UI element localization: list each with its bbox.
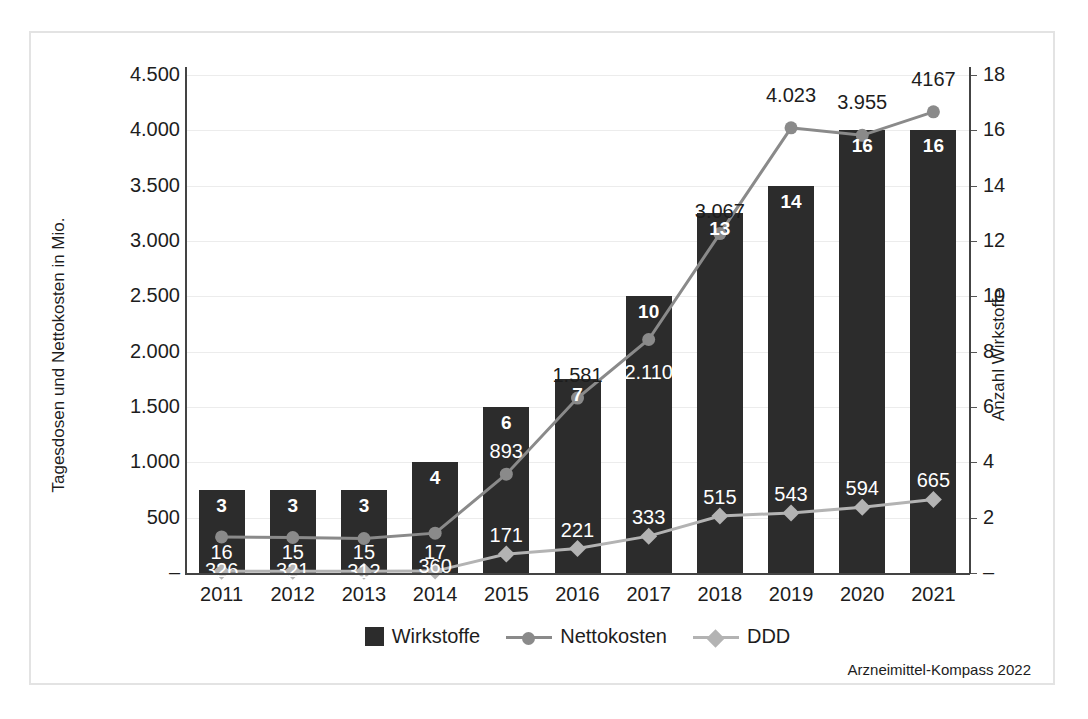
y-axis-right-tick-label: 18: [983, 63, 1005, 86]
ddd-value-label: 543: [755, 483, 826, 506]
chart-frame: Tagesdosen und Nettokosten in Mio. Anzah…: [29, 31, 1055, 685]
x-axis-tick-label: 2012: [257, 583, 328, 606]
ddd-value-label: 221: [542, 519, 613, 542]
bar-value-label: 14: [755, 191, 826, 213]
legend-marker-circle-icon: [522, 632, 535, 645]
y-axis-left-tick-label: 2.000: [130, 340, 180, 363]
bar-value-label: 3: [257, 495, 328, 517]
y-axis-left-tick-label: 1.000: [130, 450, 180, 473]
y-axis-left-tick-label: 500: [147, 506, 180, 529]
marker-diamond: [498, 546, 515, 563]
ddd-value-label: 665: [898, 469, 969, 492]
x-axis-tick-label: 2021: [898, 583, 969, 606]
legend-line-icon: [506, 630, 552, 644]
source-attribution: Arzneimittel-Kompass 2022: [848, 661, 1031, 678]
bar-value-label: 4: [400, 467, 471, 489]
x-axis-line: [185, 573, 970, 575]
x-axis-tick-label: 2019: [755, 583, 826, 606]
marker-diamond: [711, 508, 728, 525]
y-axis-right-line: [969, 67, 971, 574]
legend-line-icon: [693, 630, 739, 644]
bar-value-label: 10: [613, 301, 684, 323]
legend-item-ddd: DDD: [693, 625, 790, 648]
x-axis-tick-label: 2017: [613, 583, 684, 606]
marker-circle: [500, 468, 513, 481]
legend-item-nettokosten: Nettokosten: [506, 625, 667, 648]
bar-value-label: 3: [186, 495, 257, 517]
y-axis-right-tick-label: 6: [983, 395, 994, 418]
marker-diamond: [925, 491, 942, 508]
y-axis-left-tick-label: 4.000: [130, 118, 180, 141]
y-axis-left-tick-label: 1.500: [130, 395, 180, 418]
ddd-value-label: 333: [613, 506, 684, 529]
y-axis-left-tick-label: 3.500: [130, 174, 180, 197]
ddd-value-label: 15: [257, 541, 328, 564]
x-axis-tick-label: 2018: [684, 583, 755, 606]
y-axis-left-tick-label: –: [169, 561, 180, 584]
y-axis-right-tick-label: 16: [983, 118, 1005, 141]
bar-value-label: 16: [898, 135, 969, 157]
marker-diamond: [569, 540, 586, 557]
legend-square-icon: [365, 627, 384, 646]
marker-circle: [642, 333, 655, 346]
marker-diamond: [640, 528, 657, 545]
marker-circle: [927, 105, 940, 118]
y-axis-right-tick-label: 2: [983, 506, 994, 529]
x-axis-tick-label: 2015: [471, 583, 542, 606]
y-axis-right-tick-label: 4: [983, 450, 994, 473]
y-axis-right-tick-label: 10: [983, 284, 1005, 307]
nettokosten-value-label: 2.110: [613, 361, 684, 384]
nettokosten-value-label: 1.581: [542, 364, 613, 387]
ddd-value-label: 15: [328, 541, 399, 564]
marker-diamond: [783, 504, 800, 521]
ddd-value-label: 515: [684, 486, 755, 509]
legend-label: Wirkstoffe: [392, 625, 481, 648]
line-nettokosten: [222, 112, 934, 539]
marker-circle: [785, 121, 798, 134]
ddd-value-label: 171: [471, 524, 542, 547]
x-axis-tick-label: 2014: [400, 583, 471, 606]
marker-diamond: [854, 499, 871, 516]
plot-area: 4.5004.0003.5003.0002.5002.0001.5001.000…: [186, 75, 969, 573]
y-axis-left-tick-label: 3.000: [130, 229, 180, 252]
ddd-value-label: 594: [827, 477, 898, 500]
x-axis-tick-label: 2020: [827, 583, 898, 606]
nettokosten-value-label: 3.067: [684, 200, 755, 223]
chart-page: Tagesdosen und Nettokosten in Mio. Anzah…: [0, 0, 1088, 719]
bar-value-label: 16: [827, 135, 898, 157]
legend-marker-diamond-icon: [706, 629, 724, 647]
nettokosten-value-label: 4.023: [755, 84, 826, 107]
y-axis-right-tick-label: 8: [983, 340, 994, 363]
y-axis-right-tick-label: –: [983, 561, 994, 584]
x-axis-tick-label: 2013: [328, 583, 399, 606]
bar-value-label: 3: [328, 495, 399, 517]
bar-value-label: 6: [471, 412, 542, 434]
ddd-value-label: 16: [186, 541, 257, 564]
nettokosten-value-label: 893: [471, 440, 542, 463]
x-axis-tick-label: 2011: [186, 583, 257, 606]
ddd-value-label: 17: [400, 541, 471, 564]
nettokosten-value-label: 3.955: [827, 91, 898, 114]
y-axis-right-tick-label: 12: [983, 229, 1005, 252]
legend-item-wirkstoffe: Wirkstoffe: [365, 625, 481, 648]
y-axis-left-tick-label: 2.500: [130, 284, 180, 307]
y-axis-title-left: Tagesdosen und Nettokosten in Mio.: [49, 145, 69, 565]
x-axis-tick-label: 2016: [542, 583, 613, 606]
y-axis-left-line: [185, 67, 187, 574]
bar-value-label: 7: [542, 384, 613, 406]
nettokosten-value-label: 4167: [898, 68, 969, 91]
legend-label: DDD: [747, 625, 790, 648]
legend-label: Nettokosten: [560, 625, 667, 648]
marker-circle: [429, 527, 442, 540]
y-axis-right-tick-label: 14: [983, 174, 1005, 197]
y-axis-left-tick-label: 4.500: [130, 63, 180, 86]
chart-legend: WirkstoffeNettokostenDDD: [186, 625, 969, 648]
